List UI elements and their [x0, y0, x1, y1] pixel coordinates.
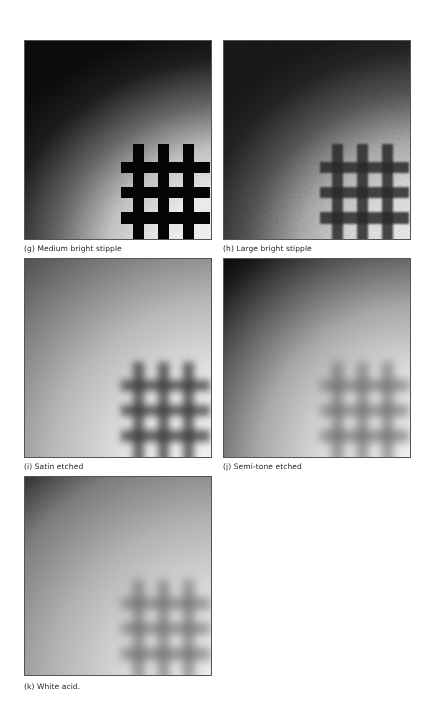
grid-bar: [320, 187, 409, 198]
grid-bar: [320, 212, 409, 223]
grid-pattern: [121, 362, 210, 457]
grid-pattern: [121, 580, 210, 675]
figure-caption-h: (h) Large bright stipple: [223, 244, 312, 253]
figure-panel-h-large-bright-stipple: [223, 40, 411, 240]
grid-bar: [121, 187, 210, 198]
grid-bar: [121, 380, 210, 391]
figure-caption-j: (j) Semi-tone etched: [223, 462, 302, 471]
grid-bar: [121, 598, 210, 609]
grid-bar: [121, 623, 210, 634]
grid-bar: [121, 648, 210, 659]
grid-bar: [320, 405, 409, 416]
grid-bar: [320, 430, 409, 441]
grid-pattern: [320, 362, 409, 457]
grid-pattern: [121, 144, 210, 239]
grid-bar: [121, 405, 210, 416]
figure-panel-i-satin-etched: [24, 258, 212, 458]
figure-caption-g: (g) Medium bright stipple: [24, 244, 122, 253]
grid-bar: [320, 162, 409, 173]
figure-panel-g-medium-bright-stipple: [24, 40, 212, 240]
grid-bar: [320, 380, 409, 391]
grid-bar: [121, 430, 210, 441]
grid-bar: [121, 162, 210, 173]
figure-panel-k-white-acid: [24, 476, 212, 676]
grid-bar: [121, 212, 210, 223]
figure-panel-j-semi-tone-etched: [223, 258, 411, 458]
figure-caption-k: (k) White acid.: [24, 682, 80, 691]
grid-pattern: [320, 144, 409, 239]
figure-caption-i: (i) Satin etched: [24, 462, 83, 471]
